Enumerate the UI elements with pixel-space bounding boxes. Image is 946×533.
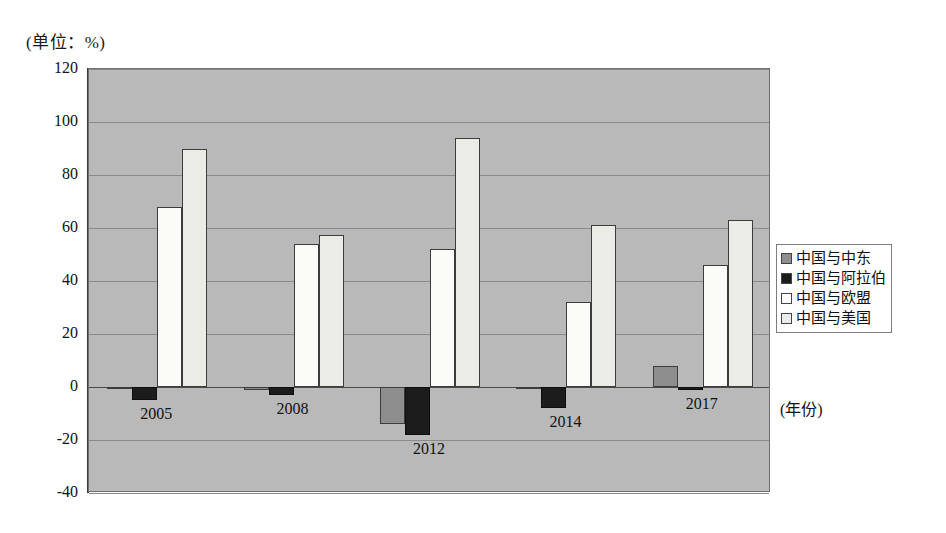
y-tick-100: 100 [18, 112, 78, 130]
legend-swatch-icon [781, 293, 792, 304]
gridline-100 [89, 122, 769, 123]
legend-label: 中国与阿拉伯 [796, 271, 886, 286]
bar [703, 265, 728, 387]
bar [294, 244, 319, 387]
bar [678, 387, 703, 390]
x-category-2017: 2017 [686, 395, 718, 413]
bar [132, 387, 157, 400]
bar [566, 302, 591, 387]
bar [516, 387, 541, 389]
y-tick-120: 120 [18, 59, 78, 77]
bar [430, 249, 455, 387]
legend-item[interactable]: 中国与中东 [781, 248, 886, 268]
x-category-2008: 2008 [277, 400, 309, 418]
y-tick--40: -40 [18, 483, 78, 501]
bar [455, 138, 480, 387]
y-tick-0: 0 [18, 377, 78, 395]
bar [107, 387, 132, 389]
x-axis-title: (年份) [780, 396, 823, 420]
bar [541, 387, 566, 408]
gridline-120 [89, 69, 769, 70]
bar [653, 366, 678, 387]
x-category-2012: 2012 [413, 440, 445, 458]
bar [182, 149, 207, 388]
bar [380, 387, 405, 424]
legend-item[interactable]: 中国与阿拉伯 [781, 268, 886, 288]
legend-swatch-icon [781, 313, 792, 324]
legend-swatch-icon [781, 273, 792, 284]
chart-legend: 中国与中东中国与阿拉伯中国与欧盟中国与美国 [776, 244, 892, 333]
bar [591, 225, 616, 387]
legend-item[interactable]: 中国与欧盟 [781, 288, 886, 308]
x-category-2005: 2005 [140, 405, 172, 423]
bar [319, 235, 344, 387]
y-tick--20: -20 [18, 430, 78, 448]
y-tick-80: 80 [18, 165, 78, 183]
legend-label: 中国与美国 [796, 311, 871, 326]
legend-label: 中国与欧盟 [796, 291, 871, 306]
y-tick-20: 20 [18, 324, 78, 342]
bar [269, 387, 294, 395]
bar [728, 220, 753, 387]
gridline--40 [89, 493, 769, 494]
y-tick-60: 60 [18, 218, 78, 236]
bar [157, 207, 182, 387]
bar [405, 387, 430, 435]
x-category-2014: 2014 [549, 413, 581, 431]
bar [244, 387, 269, 390]
legend-item[interactable]: 中国与美国 [781, 308, 886, 328]
legend-label: 中国与中东 [796, 251, 871, 266]
y-tick-40: 40 [18, 271, 78, 289]
bar-chart-figure: (单位：%) 120100806040200-20-40 20052008201… [0, 0, 946, 533]
y-axis-tick-labels: 120100806040200-20-40 [10, 0, 78, 533]
plot-area [88, 68, 770, 492]
legend-swatch-icon [781, 253, 792, 264]
